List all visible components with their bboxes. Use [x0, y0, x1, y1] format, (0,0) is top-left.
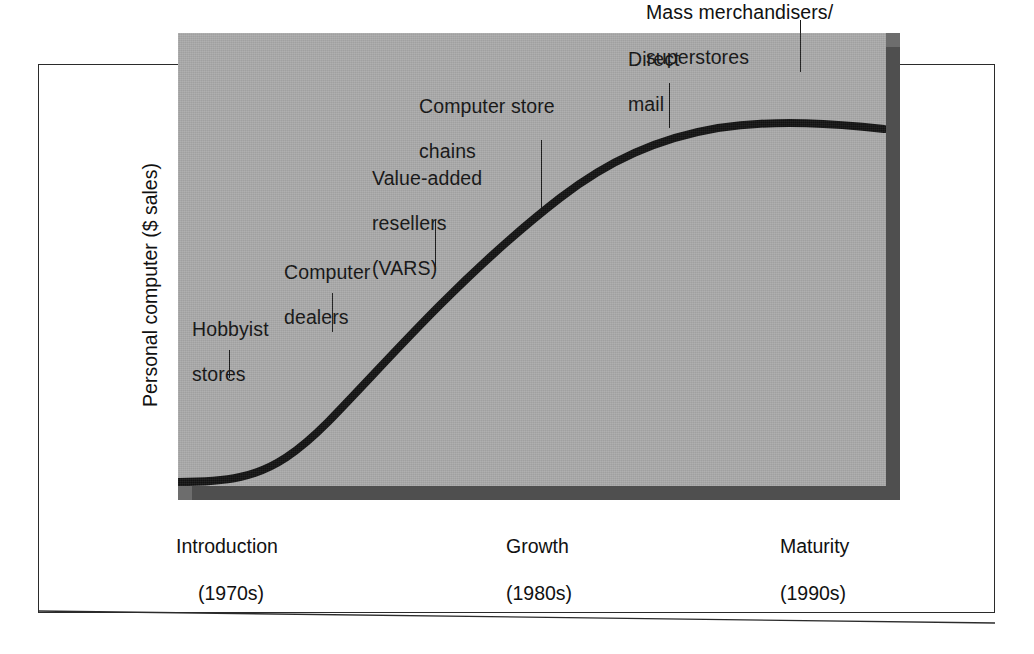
figure-page: Personal computer ($ sales) Hobbyist sto… [0, 0, 1034, 654]
plate-shadow-right-edge [886, 43, 900, 500]
x-tick-stage-maturity: Maturity [780, 535, 960, 558]
plate-bevel-bottom-left [178, 486, 192, 500]
annotation-computer-store-chains-line2: chains [419, 140, 555, 163]
annotation-value-added-resellers-line2: resellers [372, 212, 482, 235]
x-tick-stage-growth: Growth [506, 535, 686, 558]
plate-shadow-bottom-edge [188, 486, 900, 500]
leader-line-hobbyist-stores [229, 350, 230, 378]
leader-line-computer-store-chains [541, 140, 542, 208]
annotation-computer-dealers: Computer dealers [284, 238, 370, 351]
leader-line-mass-merchandisers [800, 20, 801, 72]
annotation-mass-merchandisers-line1: Mass merchandisers/ [646, 1, 833, 24]
leader-line-computer-dealers [332, 293, 333, 332]
x-tick-label-introduction: Introduction (1970s) [176, 512, 356, 629]
annotation-mass-merchandisers: Mass merchandisers/ superstores [646, 0, 833, 91]
annotation-direct-mail-line2: mail [628, 93, 680, 116]
chart-plate-3d: Hobbyist stores Computer dealers Value-a… [178, 33, 900, 500]
x-tick-label-maturity: Maturity (1990s) [780, 512, 960, 629]
x-tick-decade-growth: (1980s) [506, 582, 686, 605]
annotation-hobbyist-stores: Hobbyist stores [192, 295, 269, 408]
annotation-computer-store-chains-line1: Computer store [419, 95, 555, 118]
y-axis-title: Personal computer ($ sales) [139, 163, 162, 407]
plate-bevel-top-right [886, 33, 900, 47]
annotation-computer-dealers-line1: Computer [284, 261, 370, 284]
annotation-mass-merchandisers-line2: superstores [646, 46, 833, 69]
leader-line-value-added-resellers [435, 220, 436, 270]
x-tick-decade-introduction: (1970s) [176, 582, 356, 605]
annotation-computer-dealers-line2: dealers [284, 306, 370, 329]
annotation-value-added-resellers-line3: (VARS) [372, 257, 482, 280]
annotation-hobbyist-stores-line1: Hobbyist [192, 318, 269, 341]
plot-area-background: Hobbyist stores Computer dealers Value-a… [178, 33, 886, 486]
x-tick-decade-maturity: (1990s) [780, 582, 960, 605]
annotation-computer-store-chains: Computer store chains [419, 72, 555, 185]
x-tick-stage-introduction: Introduction [176, 535, 356, 558]
annotation-hobbyist-stores-line2: stores [192, 363, 269, 386]
x-tick-label-growth: Growth (1980s) [506, 512, 686, 629]
